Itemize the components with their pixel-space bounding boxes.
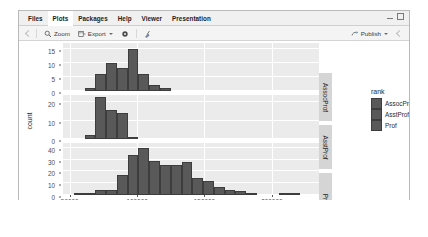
facet-strip-label: AsstProf: [322, 135, 329, 159]
legend-swatch: [371, 109, 382, 120]
toolbar-left-group: Zoom Export: [24, 26, 156, 41]
x-tick-label: 200000: [261, 198, 282, 200]
x-tick-mark: [272, 195, 273, 197]
gridline-vertical: [204, 43, 205, 91]
export-button[interactable]: Export: [74, 26, 117, 41]
tab-presentation[interactable]: Presentation: [167, 11, 216, 26]
y-tick-label: 15: [48, 47, 55, 54]
tab-files[interactable]: Files: [23, 11, 48, 26]
x-tick-label: 50000: [61, 198, 79, 200]
chevron-down-icon[interactable]: [109, 33, 113, 35]
broom-clear-icon: [144, 30, 152, 38]
zoom-label: Zoom: [54, 30, 70, 37]
publish-chevron-down-icon[interactable]: [384, 33, 388, 35]
legend-label: AsstProf: [385, 111, 409, 118]
histogram-bar: [85, 135, 96, 139]
y-axis-label: count: [26, 112, 33, 129]
zoom-button[interactable]: Zoom: [40, 26, 74, 41]
facet-panel: [63, 143, 319, 195]
histogram-bar: [95, 97, 106, 139]
y-tick-label: 10: [48, 61, 55, 68]
y-tick-mark: [59, 173, 61, 174]
rstudio-plots-pane: Files Plots Packages Help Viewer Present…: [18, 10, 410, 200]
x-tick-label: 100000: [126, 198, 147, 200]
remove-plot-icon: [121, 30, 129, 38]
facet-panel: [63, 95, 319, 139]
facet-strip-label: AssocProf: [322, 82, 329, 111]
histogram-bar: [74, 193, 85, 195]
facet-strip-label: Prof: [322, 193, 329, 200]
pane-tab-bar: Files Plots Packages Help Viewer Present…: [19, 11, 409, 26]
tab-help[interactable]: Help: [113, 11, 137, 26]
histogram-bar: [138, 148, 149, 195]
gridline-vertical: [272, 43, 273, 91]
histogram-bar: [117, 113, 128, 139]
histogram-bar: [117, 175, 128, 195]
facet-panel: [63, 43, 319, 91]
histogram-bar: [279, 193, 290, 195]
y-tick-mark: [59, 93, 61, 94]
histogram-bar: [160, 165, 171, 195]
histogram-bar: [95, 190, 106, 195]
histogram-bar: [117, 68, 128, 91]
magnifier-icon: [44, 30, 52, 38]
histogram-bar: [149, 85, 160, 91]
histogram-bar: [106, 190, 117, 195]
legend-item-prof[interactable]: Prof: [371, 120, 409, 131]
gridline-vertical: [204, 95, 205, 139]
histogram-bar: [160, 88, 171, 91]
y-tick-label: 20: [48, 170, 55, 177]
facet-strip: Prof: [319, 173, 332, 200]
histogram-bar: [85, 193, 96, 195]
x-tick-mark: [70, 195, 71, 197]
gridline-vertical: [70, 43, 71, 91]
histogram-bar: [128, 49, 139, 91]
gridline-vertical: [70, 95, 71, 139]
refresh-icon[interactable]: [395, 29, 404, 38]
y-tick-mark: [59, 50, 61, 51]
histogram-bar: [128, 155, 139, 195]
gridline-vertical: [272, 95, 273, 139]
y-tick-mark: [59, 104, 61, 105]
legend-swatch: [371, 120, 382, 131]
y-tick-mark: [59, 78, 61, 79]
histogram-bar: [149, 161, 160, 195]
facet-strip: AsstProf: [319, 125, 332, 169]
y-tick-label: 20: [48, 101, 55, 108]
plots-toolbar: Zoom Export: [19, 26, 409, 41]
histogram-bar: [85, 88, 96, 91]
back-arrow-icon[interactable]: [24, 29, 33, 38]
legend-label: Prof: [385, 122, 397, 129]
gridline-vertical: [272, 143, 273, 195]
histogram-bar: [106, 110, 117, 139]
y-tick-label: 0: [51, 138, 55, 145]
tab-viewer[interactable]: Viewer: [137, 11, 168, 26]
legend-item-asstprof[interactable]: AsstProf: [371, 109, 409, 120]
histogram-bar: [182, 162, 193, 195]
clear-plots-button[interactable]: [140, 26, 156, 41]
legend-label: AssocProf: [385, 100, 409, 107]
tab-packages[interactable]: Packages: [73, 11, 112, 26]
maximize-icon[interactable]: [397, 13, 405, 21]
histogram-bar: [95, 74, 106, 91]
remove-plot-button[interactable]: [117, 26, 133, 41]
minimize-icon[interactable]: [386, 13, 394, 21]
publish-label: Publish: [361, 30, 381, 37]
toolbar-divider-2: [136, 29, 137, 38]
gridline: [63, 159, 319, 160]
histogram-bar: [192, 178, 203, 195]
y-tick-label: 0: [51, 90, 55, 97]
publish-button[interactable]: Publish: [347, 26, 392, 41]
y-tick-label: 40: [48, 146, 55, 153]
gridline-vertical: [137, 95, 138, 139]
legend-swatch: [371, 98, 382, 109]
y-tick-label: 5: [51, 75, 55, 82]
histogram-bar: [214, 187, 225, 195]
tab-plots[interactable]: Plots: [48, 11, 74, 26]
window-controls: [386, 13, 405, 21]
y-tick-mark: [59, 122, 61, 123]
legend-item-assocprof[interactable]: AssocProf: [371, 98, 409, 109]
y-tick-label: 30: [48, 158, 55, 165]
histogram-bar: [246, 193, 257, 195]
export-label: Export: [88, 30, 106, 37]
